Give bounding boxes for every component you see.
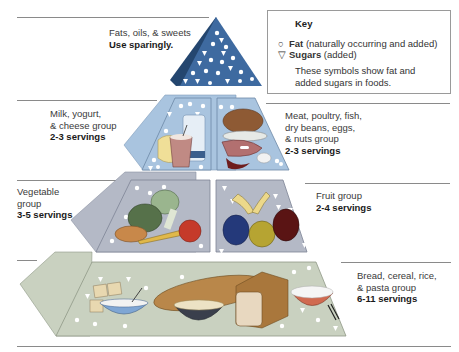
key-legend: Key ○Fat (naturally occurring and added)… (267, 10, 451, 94)
pear (249, 221, 275, 247)
label-meat: Meat, poultry, fish, dry beans, eggs, & … (285, 110, 362, 156)
label-fats: Fats, oils, & sweets Use sparingly. (109, 27, 191, 50)
label-bread-line1: Bread, cereal, rice, (357, 270, 437, 282)
label-fruit-line1: Fruit group (316, 190, 371, 202)
key-description-line2: added sugars in foods. (295, 77, 415, 89)
fish (223, 131, 267, 141)
chicken (223, 109, 263, 133)
label-meat-line1: Meat, poultry, fish, (285, 110, 362, 122)
label-vegetable-servings: 3-5 servings (17, 209, 72, 221)
crackers (93, 284, 108, 298)
label-fats-servings: Use sparingly. (109, 39, 191, 51)
key-item-sugars-detail: (added) (321, 49, 356, 60)
key-item-sugars-name: Sugars (289, 49, 321, 60)
triangle-sugar-icon: ▽ (278, 49, 289, 60)
label-milk-line1: Milk, yogurt, (50, 108, 117, 120)
label-fruit: Fruit group 2-4 servings (316, 190, 371, 213)
label-meat-line3: & nuts group (285, 133, 362, 145)
label-milk-line2: & cheese group (50, 120, 117, 132)
label-meat-servings: 2-3 servings (285, 145, 362, 157)
label-fats-name: Fats, oils, & sweets (109, 27, 191, 39)
label-bread: Bread, cereal, rice, & pasta group 6-11 … (357, 270, 437, 305)
label-meat-line2: dry beans, eggs, (285, 122, 362, 134)
label-fruit-servings: 2-4 servings (316, 202, 371, 214)
veg-fruit-tier (71, 172, 307, 254)
key-item-sugars: ▽Sugars (added) (278, 49, 357, 60)
tomato (179, 220, 201, 242)
key-item-fat-detail: (naturally occurring and added) (303, 38, 437, 49)
egg (257, 153, 271, 163)
label-vegetable-line2: group (17, 198, 72, 210)
label-vegetable: Vegetable group 3-5 servings (17, 186, 72, 221)
label-milk-servings: 2-3 servings (50, 131, 117, 143)
key-title: Key (295, 18, 312, 29)
yogurt-cup (170, 137, 192, 167)
grapes (223, 215, 249, 245)
label-vegetable-line1: Vegetable (17, 186, 72, 198)
potato (115, 226, 147, 242)
key-item-fat: ○Fat (naturally occurring and added) (278, 38, 437, 49)
key-description-line1: These symbols show fat and (295, 65, 415, 77)
key-item-fat-name: Fat (289, 38, 303, 49)
milk-meat-tier (124, 95, 289, 171)
bread-tier (20, 252, 346, 336)
key-description: These symbols show fat and added sugars … (295, 65, 415, 88)
apple (273, 209, 299, 241)
label-bread-servings: 6-11 servings (357, 293, 437, 305)
label-milk: Milk, yogurt, & cheese group 2-3 serving… (50, 108, 117, 143)
circle-fat-icon: ○ (278, 38, 289, 49)
label-bread-line2: & pasta group (357, 282, 437, 294)
